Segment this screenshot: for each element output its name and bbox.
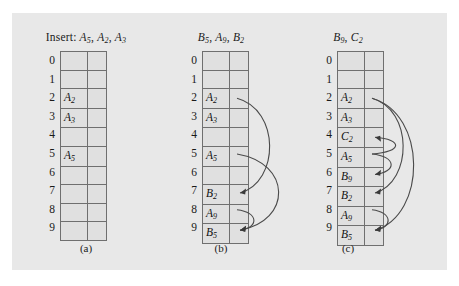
- hash-slot-key: C2: [341, 130, 353, 142]
- hash-slot-aux-cell: [230, 166, 249, 185]
- panel-c-header-key: C2: [351, 31, 363, 43]
- panel-a-table-wrap: 0123456789 A2A3A5: [60, 51, 107, 241]
- panel-a-header-key: A5: [80, 31, 91, 43]
- slot-index-label: 1: [49, 70, 55, 89]
- hash-slot-key-cell: B9: [338, 167, 365, 187]
- hash-slot-row: B9: [338, 167, 384, 187]
- hash-slot-row: [61, 166, 107, 185]
- hash-slot-key-cell: A5: [61, 146, 88, 166]
- hash-slot-row: [203, 166, 249, 185]
- panel-a-hash-table: A2A3A5: [60, 51, 107, 241]
- hash-slot-key-cell: [203, 70, 230, 89]
- hash-slot-key-cell: A2: [338, 89, 365, 109]
- hash-slot-row: [61, 70, 107, 89]
- panel-a-header-prefix: Insert:: [46, 31, 80, 43]
- panel-c-index-column: 0123456789: [326, 51, 332, 237]
- hash-slot-key-cell: [61, 52, 88, 71]
- hash-slot-aux-cell: [365, 147, 384, 167]
- hash-table-panel-b: B5, A9, B2 0123456789 A2A3A5B2A9B5 (b): [147, 13, 295, 270]
- hash-slot-key: B9: [341, 170, 352, 182]
- panel-b-header-key: B2: [233, 31, 244, 43]
- slot-index-label: 0: [326, 51, 332, 70]
- hash-slot-key-cell: [203, 128, 230, 147]
- hash-slot-row: [61, 222, 107, 241]
- hash-slot-key-cell: B2: [203, 185, 230, 205]
- slot-index-label: 1: [191, 70, 197, 89]
- hash-slot-key: A9: [341, 209, 352, 221]
- hash-slot-aux-cell: [88, 222, 107, 241]
- slot-index-label: 9: [326, 218, 332, 237]
- hash-slot-aux-cell: [365, 187, 384, 207]
- hash-slot-aux-cell: [230, 128, 249, 147]
- hash-slot-aux-cell: [88, 146, 107, 166]
- slot-index-label: 6: [191, 163, 197, 182]
- panel-a-header-key: A3: [115, 31, 126, 43]
- hash-slot-key-cell: A3: [61, 108, 88, 128]
- hash-slot-key: A2: [206, 91, 217, 103]
- hash-slot-row: [203, 128, 249, 147]
- hash-slot-row: A3: [61, 108, 107, 128]
- panel-b-header: B5, A9, B2: [147, 31, 295, 43]
- panel-a-header: Insert: A5, A2, A3: [12, 31, 160, 43]
- panel-b-index-column: 0123456789: [191, 51, 197, 237]
- hash-slot-aux-cell: [88, 52, 107, 71]
- slot-index-label: 5: [49, 144, 55, 163]
- slot-index-label: 2: [326, 88, 332, 107]
- hash-slot-row: A3: [338, 108, 384, 128]
- hash-slot-key-cell: [61, 166, 88, 185]
- hash-slot-aux-cell: [88, 89, 107, 109]
- slot-index-label: 3: [49, 107, 55, 126]
- hash-slot-key-cell: [61, 70, 88, 89]
- slot-index-label: 0: [191, 51, 197, 70]
- hash-slot-key: A3: [64, 111, 75, 123]
- panel-c-header: B9, C2: [274, 31, 422, 43]
- hash-slot-key-cell: A5: [338, 147, 365, 167]
- hash-slot-key-cell: [338, 52, 365, 71]
- hash-slot-row: [338, 70, 384, 89]
- hash-slot-key: A2: [64, 91, 75, 103]
- hash-slot-row: A9: [203, 204, 249, 224]
- slot-index-label: 4: [326, 125, 332, 144]
- hash-slot-row: A9: [338, 206, 384, 226]
- hash-slot-key-cell: [61, 203, 88, 222]
- hash-slot-key: B5: [206, 226, 217, 238]
- hash-slot-aux-cell: [88, 70, 107, 89]
- panel-b-caption: (b): [147, 242, 295, 254]
- header-separator: ,: [227, 31, 233, 43]
- panel-b-header-key: B5: [198, 31, 209, 43]
- hash-slot-row: B5: [203, 224, 249, 244]
- hash-slot-row: [61, 128, 107, 147]
- hash-slot-row: [61, 185, 107, 204]
- hash-slot-row: A2: [203, 89, 249, 109]
- hash-slot-aux-cell: [365, 128, 384, 148]
- slot-index-label: 7: [191, 181, 197, 200]
- panel-a-caption: (a): [12, 242, 160, 254]
- hash-slot-row: A5: [338, 147, 384, 167]
- slot-index-label: 4: [191, 125, 197, 144]
- hash-slot-aux-cell: [230, 52, 249, 71]
- hash-slot-row: [61, 52, 107, 71]
- slot-index-label: 1: [326, 70, 332, 89]
- slot-index-label: 7: [49, 181, 55, 200]
- hash-slot-key: B2: [341, 189, 352, 201]
- hash-slot-aux-cell: [230, 70, 249, 89]
- hash-slot-aux-cell: [230, 224, 249, 244]
- slot-index-label: 2: [49, 88, 55, 107]
- hash-slot-key: A5: [64, 149, 75, 161]
- slot-index-label: 8: [191, 200, 197, 219]
- hash-slot-aux-cell: [230, 89, 249, 109]
- hash-slot-key: A5: [341, 150, 352, 162]
- hash-slot-key-cell: A9: [338, 206, 365, 226]
- hash-slot-key: B2: [206, 187, 217, 199]
- panel-c-header-key: B9: [333, 31, 344, 43]
- hash-slot-key: A3: [206, 111, 217, 123]
- hash-slot-aux-cell: [365, 52, 384, 71]
- slot-index-label: 3: [191, 107, 197, 126]
- hash-slot-aux-cell: [230, 146, 249, 166]
- hash-slot-aux-cell: [88, 203, 107, 222]
- hash-slot-key-cell: C2: [338, 128, 365, 148]
- hash-slot-row: A3: [203, 108, 249, 128]
- hash-slot-aux-cell: [230, 185, 249, 205]
- hash-slot-aux-cell: [230, 108, 249, 128]
- hash-slot-key-cell: [61, 185, 88, 204]
